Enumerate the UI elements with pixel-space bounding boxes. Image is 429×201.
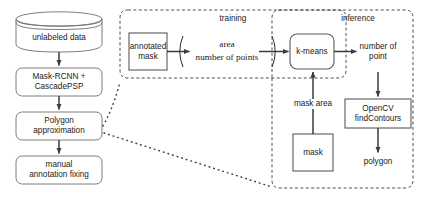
dotted-link-polygon-to-inference-lower bbox=[104, 133, 272, 187]
diagram-vector-layer bbox=[0, 0, 429, 201]
mask-box bbox=[293, 134, 333, 171]
kmeans-box bbox=[290, 34, 334, 69]
manual-annotation-fixing-box bbox=[16, 156, 102, 184]
unlabeled-data-cylinder bbox=[16, 12, 102, 52]
diagram-canvas: unlabeled data Mask-RCNN + CascadePSP Po… bbox=[0, 0, 429, 201]
polygon-approximation-box bbox=[16, 112, 102, 140]
dotted-link-polygon-to-inference bbox=[103, 82, 120, 126]
opencv-findcontours-box bbox=[345, 99, 411, 128]
mask-rcnn-box bbox=[16, 68, 102, 96]
annotated-mask-box bbox=[129, 33, 167, 70]
